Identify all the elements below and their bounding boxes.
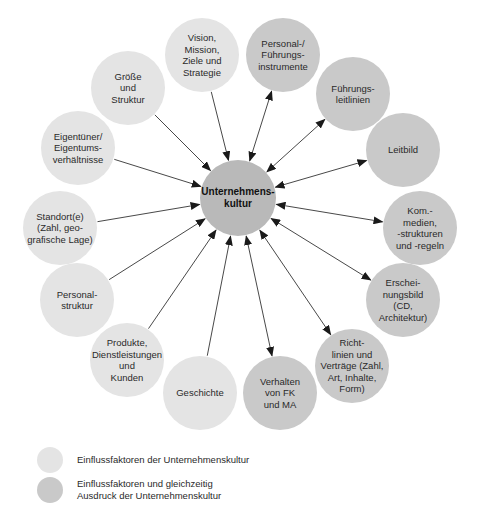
- arrow-leitbild: [275, 161, 366, 187]
- node-label: Eigentüner/ Eigentums- verhältnisse: [53, 131, 104, 166]
- node-kommunikation: Kom.- medien, -strukturen und -regeln: [383, 191, 457, 265]
- node-groesse: Größe und Struktur: [91, 51, 165, 125]
- node-label: Produkte, Dienstleistungen und Kunden: [92, 337, 162, 383]
- legend-item-dark: Einflussfaktoren und gleichzeitig Ausdru…: [37, 477, 221, 503]
- node-label: Standort(e) (Zahl, geo- grafische Lage): [27, 211, 92, 246]
- arrow-eigentuemer: [114, 159, 201, 186]
- arrow-verhalten: [246, 236, 272, 356]
- node-label: Größe und Struktur: [111, 71, 144, 106]
- node-label: Vision, Mission, Ziele und Strategie: [182, 32, 221, 78]
- node-label: Verhalten von FK und MA: [260, 376, 300, 411]
- node-richtlinien: Richt- linien und Verträge (Zahl, Art, I…: [315, 329, 389, 403]
- node-label: Führungs- leitlinien: [331, 83, 374, 106]
- legend-item-light: Einflussfaktoren der Unternehmenskultur: [37, 447, 249, 473]
- arrow-personal-fuehrungsinstrumente: [250, 91, 272, 161]
- node-geschichte: Geschichte: [163, 356, 237, 430]
- arrow-erscheinungsbild: [271, 219, 371, 281]
- node-label: Richt- linien und Verträge (Zahl, Art, I…: [321, 337, 384, 395]
- culture-influence-diagram: Vision, Mission, Ziele und StrategiePers…: [0, 0, 477, 505]
- node-eigentuemer: Eigentüner/ Eigentums- verhältnisse: [41, 111, 115, 185]
- arrow-kommunikation: [276, 204, 382, 221]
- node-vision: Vision, Mission, Ziele und Strategie: [165, 18, 239, 92]
- node-label: Personal-/ Führungs- instrumente: [258, 38, 308, 73]
- node-label: Geschichte: [176, 387, 224, 399]
- node-standort: Standort(e) (Zahl, geo- grafische Lage): [23, 191, 97, 265]
- node-verhalten: Verhalten von FK und MA: [243, 356, 317, 430]
- node-label: Erschei- nungsbild (CD, Architektur): [379, 277, 428, 323]
- node-label: Leitbild: [388, 144, 418, 156]
- arrow-richtlinien: [260, 230, 331, 334]
- node-personal-fuehrungsinstrumente: Personal-/ Führungs- instrumente: [246, 18, 320, 92]
- arrow-fuehrungsleitlinien: [267, 119, 325, 171]
- arrow-vision: [211, 92, 228, 160]
- arrow-personalstruktur: [109, 219, 205, 280]
- node-personalstruktur: Personal- struktur: [40, 263, 114, 337]
- legend-swatch-light-icon: [37, 447, 63, 473]
- center-node: Unternehmens- kultur: [200, 160, 276, 236]
- node-label: Kom.- medien, -strukturen und -regeln: [396, 205, 444, 251]
- node-leitbild: Leitbild: [366, 113, 440, 187]
- node-fuehrungsleitlinien: Führungs- leitlinien: [316, 57, 390, 131]
- node-produkte: Produkte, Dienstleistungen und Kunden: [90, 323, 164, 397]
- arrow-produkte: [148, 230, 215, 328]
- node-label: Personal- struktur: [57, 289, 98, 312]
- legend-label-dark: Einflussfaktoren und gleichzeitig Ausdru…: [77, 478, 221, 502]
- legend-label-light: Einflussfaktoren der Unternehmenskultur: [77, 454, 249, 466]
- arrow-standort: [97, 204, 199, 221]
- arrow-geschichte: [207, 236, 230, 355]
- arrow-groesse: [155, 115, 211, 171]
- node-erscheinungsbild: Erschei- nungsbild (CD, Architektur): [366, 263, 440, 337]
- legend-swatch-dark-icon: [37, 477, 63, 503]
- center-label: Unternehmens- kultur: [201, 186, 274, 210]
